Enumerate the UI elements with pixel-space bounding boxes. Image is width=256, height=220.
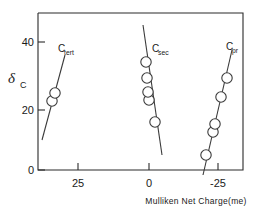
y-tick-label-40: 40 [22,36,34,48]
y-tick-label-20: 20 [22,104,34,116]
data-point [150,117,160,127]
series-label-c-pr-subscript: pr [232,47,239,55]
y-axis-title-subscript: C [20,80,27,90]
x-tick-label-neg25: -25 [210,177,226,189]
data-point [143,87,153,97]
y-axis-ticks [38,42,45,170]
data-point [142,73,152,83]
plot-frame [38,13,243,170]
series-label-c-sec-subscript: sec [158,49,169,56]
chart-figure: 40 20 0 δ C 25 0 -25 Mulliken Net Charge… [0,0,256,220]
data-point [216,92,226,102]
data-point [222,73,232,83]
y-axis-title: δ C [8,70,27,90]
x-tick-label-25: 25 [72,177,84,189]
data-point [141,57,151,67]
data-point [50,88,60,98]
x-tick-label-0: 0 [146,177,152,189]
series-c-sec: C sec [141,25,169,155]
series-c-tert: C tert [42,43,74,140]
data-point [210,119,220,129]
x-axis-title: Mulliken Net Charge(me) [145,196,246,206]
x-axis-ticks [78,163,218,170]
y-axis-title-symbol: δ [8,70,16,86]
series-label-c-tert-subscript: tert [64,49,74,56]
series-c-pr: C pr [201,41,239,175]
data-point [201,150,211,160]
y-tick-label-0: 0 [28,164,34,176]
scatter-plot: 40 20 0 δ C 25 0 -25 Mulliken Net Charge… [0,0,256,220]
